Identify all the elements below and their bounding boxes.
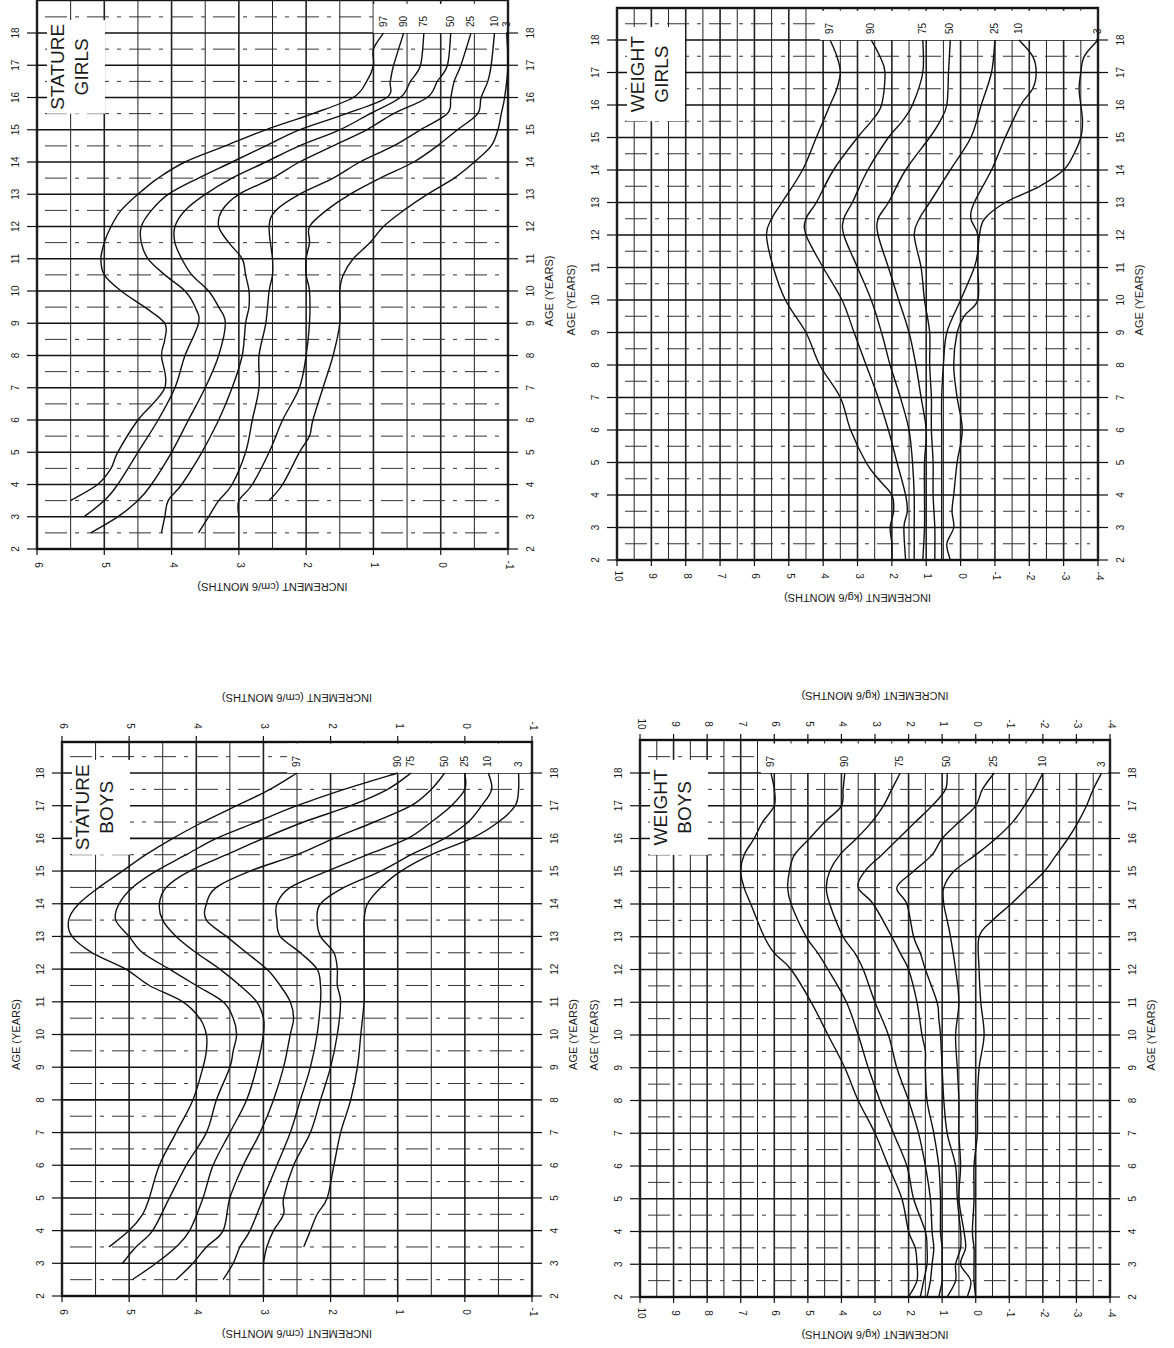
increment-tick-label-top: -1 <box>528 722 539 731</box>
increment-axis-title: INCREMENT (kg/6 MONTHS) <box>801 1329 948 1341</box>
increment-tick-label-top: -1 <box>1005 720 1016 729</box>
increment-tick-label: -1 <box>528 1308 539 1317</box>
age-tick-label-right: 15 <box>549 865 560 877</box>
age-tick-label-right: 10 <box>549 1029 560 1041</box>
increment-tick-label-top: 2 <box>327 723 338 729</box>
age-tick-label-left: 17 <box>35 800 46 812</box>
increment-tick-label: 4 <box>192 1309 203 1315</box>
percentile-label: 3 <box>1096 761 1107 767</box>
increment-tick-label: 6 <box>33 562 44 568</box>
percentile-label: 75 <box>418 15 429 27</box>
chart-title-line-2: GIRLS <box>651 46 672 103</box>
age-tick-label-left: 7 <box>590 394 601 400</box>
age-tick-label-left: 10 <box>35 1029 46 1041</box>
age-axis-title-left: AGE (YEARS) <box>10 999 22 1070</box>
age-tick-label-right: 11 <box>1115 262 1126 273</box>
age-tick-label-right: 6 <box>525 417 536 423</box>
increment-tick-label-top: 0 <box>461 723 472 729</box>
percentile-label: 50 <box>941 755 952 767</box>
age-tick-label-right: 16 <box>549 832 560 844</box>
age-tick-label-left: 10 <box>590 294 601 306</box>
age-tick-label-right: 5 <box>1115 459 1126 465</box>
percentile-label: 90 <box>865 22 876 34</box>
age-tick-label-left: 16 <box>10 92 21 104</box>
chart-title-line-2: BOYS <box>96 781 117 834</box>
increment-tick-label-top: 2 <box>905 721 916 727</box>
age-tick-label-right: 6 <box>549 1162 560 1168</box>
increment-tick-label: 1 <box>394 1309 405 1315</box>
increment-tick-label: -2 <box>1039 1309 1050 1318</box>
age-tick-label-left: 14 <box>613 898 624 910</box>
age-tick-label-right: 4 <box>1127 1228 1138 1234</box>
percentile-label: 10 <box>1037 755 1048 767</box>
percentile-label: 75 <box>917 22 928 34</box>
age-tick-label-left: 13 <box>10 188 21 200</box>
percentile-label: 90 <box>398 15 409 27</box>
age-tick-label-right: 8 <box>1127 1097 1138 1103</box>
age-tick-label-right: 10 <box>525 285 536 297</box>
percentile-label: 75 <box>405 755 416 767</box>
increment-tick-label: 2 <box>302 562 313 568</box>
age-tick-label-left: 3 <box>10 514 21 520</box>
percentile-label: 50 <box>944 22 955 34</box>
age-tick-label-right: 3 <box>1127 1261 1138 1267</box>
age-tick-label-left: 10 <box>10 285 21 297</box>
increment-tick-label: -1 <box>504 561 515 570</box>
age-tick-label-right: 8 <box>1115 362 1126 368</box>
age-tick-label-right: 7 <box>1115 394 1126 400</box>
age-tick-label-right: 11 <box>1127 997 1138 1008</box>
weight-girls-chart: 2233445566778899101011111212131314141515… <box>565 8 1145 604</box>
percentile-curve-50 <box>176 773 445 1280</box>
percentile-label: 97 <box>291 755 302 767</box>
age-tick-label-left: 18 <box>10 27 21 39</box>
age-tick-label-right: 18 <box>1127 767 1138 779</box>
increment-axis-title-top: INCREMENT (cm/6 MONTHS) <box>222 692 372 704</box>
increment-axis-title-top: INCREMENT (kg/6 MONTHS) <box>801 690 948 702</box>
increment-tick-label: 9 <box>647 573 658 579</box>
age-tick-label-right: 7 <box>549 1129 560 1135</box>
increment-tick-label: 7 <box>716 573 727 579</box>
increment-tick-label: 5 <box>100 562 111 568</box>
age-tick-label-left: 7 <box>613 1130 624 1136</box>
percentile-label: 50 <box>439 755 450 767</box>
increment-tick-label: 6 <box>58 1309 69 1315</box>
increment-tick-label-top: 6 <box>770 721 781 727</box>
age-axis-title-left: AGE (YEARS) <box>588 1000 600 1071</box>
age-tick-label-left: 15 <box>613 865 624 877</box>
age-tick-label-left: 5 <box>590 459 601 465</box>
age-tick-label-left: 6 <box>10 417 21 423</box>
increment-tick-label: 6 <box>770 1310 781 1316</box>
age-tick-label-left: 3 <box>613 1261 624 1267</box>
age-tick-label-left: 6 <box>613 1163 624 1169</box>
age-tick-label-right: 15 <box>1115 132 1126 144</box>
percentile-label: 25 <box>988 755 999 767</box>
chart-title-line-2: BOYS <box>674 781 695 834</box>
age-tick-label-right: 15 <box>1127 865 1138 877</box>
age-tick-label-right: 5 <box>549 1195 560 1201</box>
age-tick-label-left: 9 <box>10 320 21 326</box>
percentile-label: 97 <box>378 15 389 27</box>
age-tick-label-left: 17 <box>590 67 601 79</box>
age-tick-label-left: 14 <box>35 898 46 910</box>
increment-tick-label: 0 <box>437 562 448 568</box>
increment-tick-label-top: 4 <box>192 723 203 729</box>
age-axis-title-right: AGE (YEARS) <box>543 256 555 327</box>
stature-girls-chart: 2233445566778899101011111212131314141515… <box>0 0 555 593</box>
age-tick-label-right: 17 <box>525 59 536 71</box>
increment-tick-label: -3 <box>1072 1309 1083 1318</box>
chart-title-line-2: GIRLS <box>71 38 92 95</box>
age-tick-label-right: 2 <box>549 1293 560 1299</box>
age-tick-label-right: 8 <box>549 1097 560 1103</box>
age-tick-label-right: 17 <box>1127 800 1138 812</box>
age-tick-label-right: 4 <box>549 1227 560 1233</box>
age-tick-label-right: 17 <box>1115 67 1126 79</box>
percentile-curve-3 <box>304 773 519 1247</box>
age-tick-label-right: 2 <box>1127 1294 1138 1300</box>
age-tick-label-left: 11 <box>590 262 601 273</box>
age-tick-label-left: 8 <box>590 362 601 368</box>
age-tick-label-left: 12 <box>613 964 624 976</box>
percentile-label: 90 <box>392 755 403 767</box>
age-tick-label-right: 9 <box>1127 1065 1138 1071</box>
age-tick-label-left: 12 <box>590 229 601 241</box>
age-tick-label-left: 7 <box>35 1129 46 1135</box>
